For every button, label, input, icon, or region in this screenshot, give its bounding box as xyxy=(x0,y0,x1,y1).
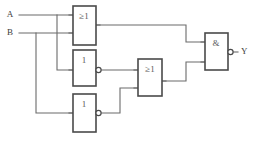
gate-or2: ≥1 xyxy=(134,59,166,96)
gate-inv1: 1 xyxy=(69,50,101,86)
gate-inv1-inversion-bubble xyxy=(96,67,101,72)
gate-or1-label: ≥1 xyxy=(79,11,88,21)
circuit-canvas: ≥111≥1&ABY xyxy=(0,0,257,141)
gate-inv1-label: 1 xyxy=(82,55,87,65)
wire-or1-to-and1 xyxy=(96,25,205,42)
gate-or2-label: ≥1 xyxy=(145,64,154,74)
logic-circuit-diagram: ≥111≥1&ABY xyxy=(0,0,257,141)
gate-and1: & xyxy=(201,33,233,70)
output-label-Y: Y xyxy=(241,46,248,56)
input-label-A: A xyxy=(7,9,14,19)
wire-b-branch-to-inv2 xyxy=(36,33,73,113)
gate-inv2-label: 1 xyxy=(82,99,87,109)
wire-inv2-to-or2 xyxy=(101,88,138,113)
gate-and1-label: & xyxy=(212,38,219,48)
wire-a-branch-to-inv1 xyxy=(57,15,73,70)
gate-inv2-inversion-bubble xyxy=(96,110,101,115)
input-label-B: B xyxy=(7,27,13,37)
wire-or2-to-and1 xyxy=(162,62,205,81)
gate-and1-inversion-bubble xyxy=(228,49,233,54)
gate-inv2: 1 xyxy=(69,94,101,132)
gate-or1: ≥1 xyxy=(69,6,100,45)
